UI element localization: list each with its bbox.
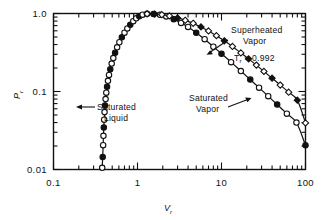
figure-container: 1.0 0.1 0.01 0.1 1 10 100 Pr Vr Saturate… [0, 0, 324, 220]
x-axis-title-subscript: r [170, 208, 173, 215]
plot-frame [54, 14, 306, 170]
saturated-liquid-arrow-head [76, 105, 82, 110]
saturated-liquid-label-line1: Saturated [97, 102, 136, 112]
data-point-circle-open [266, 94, 271, 99]
xtick-label-0.1: 0.1 [46, 177, 60, 188]
data-point-circle-filled [219, 51, 224, 56]
data-point-circle-filled [104, 84, 109, 89]
data-point-circle-open [104, 90, 109, 95]
data-point-circle-open [228, 59, 233, 64]
data-point-circle-open [284, 111, 289, 116]
superheated-vapor-label-line1: Superheated [231, 25, 282, 35]
data-point-diamond-open [205, 28, 211, 34]
xtick-label-1: 1 [135, 177, 141, 188]
svg-text:Pr: Pr [12, 90, 24, 99]
xtick-label-100: 100 [297, 177, 314, 188]
data-point-circle-open [111, 55, 116, 60]
y-axis-title-subscript: r [17, 90, 24, 93]
xtick-label-10: 10 [216, 177, 227, 188]
data-point-circle-open [106, 72, 111, 77]
data-point-circle-open [100, 142, 105, 147]
data-point-circle-open [103, 96, 108, 101]
data-point-circle-filled [108, 67, 113, 72]
annotation-superheated-vapor: Superheated Vapor Tr = 0.992 [207, 25, 283, 64]
axis-ticks [54, 14, 306, 170]
y-axis-title: Pr [12, 90, 24, 99]
data-point-circle-open [101, 133, 106, 138]
data-point-circle-open [202, 37, 207, 42]
saturated-vapor-arrow-line [228, 99, 249, 107]
tr-equals-value: = 0.992 [242, 53, 275, 63]
ytick-label-1: 1.0 [33, 8, 47, 19]
x-axis-title: Vr [164, 203, 173, 215]
superheated-vapor-label-line2: Vapor [243, 36, 266, 46]
data-point-diamond-open [190, 20, 196, 26]
data-point-circle-filled [303, 142, 308, 147]
data-point-circle-filled [112, 50, 117, 55]
data-point-circle-open [256, 85, 261, 90]
data-point-diamond-open [213, 33, 219, 39]
data-point-circle-filled [101, 125, 106, 130]
data-point-circle-filled [274, 102, 279, 107]
data-point-circle-filled [194, 30, 199, 35]
annotation-saturated-vapor: Saturated Vapor [189, 93, 252, 114]
data-point-circle-filled [100, 154, 105, 159]
data-point-diamond-open [302, 120, 308, 126]
data-point-circle-open [100, 165, 105, 170]
saturated-liquid-label-line2: Liquid [104, 113, 128, 123]
data-point-circle-open [105, 78, 110, 83]
data-point-circle-filled [248, 77, 253, 82]
data-point-circle-open [238, 68, 243, 73]
annotation-saturated-liquid: Saturated Liquid [76, 102, 136, 123]
data-point-circle-open [109, 61, 114, 66]
data-point-diamond-filled [198, 24, 204, 30]
ytick-label-0.1: 0.1 [33, 86, 47, 97]
data-point-circle-open [294, 120, 299, 125]
saturated-vapor-label-line2: Vapor [196, 104, 219, 114]
saturated-vapor-label-line1: Saturated [189, 93, 228, 103]
data-point-circle-open [185, 24, 190, 29]
ytick-label-0.01: 0.01 [27, 164, 47, 175]
reduced-pressure-volume-chart: 1.0 0.1 0.01 0.1 1 10 100 Pr Vr Saturate… [0, 0, 324, 220]
